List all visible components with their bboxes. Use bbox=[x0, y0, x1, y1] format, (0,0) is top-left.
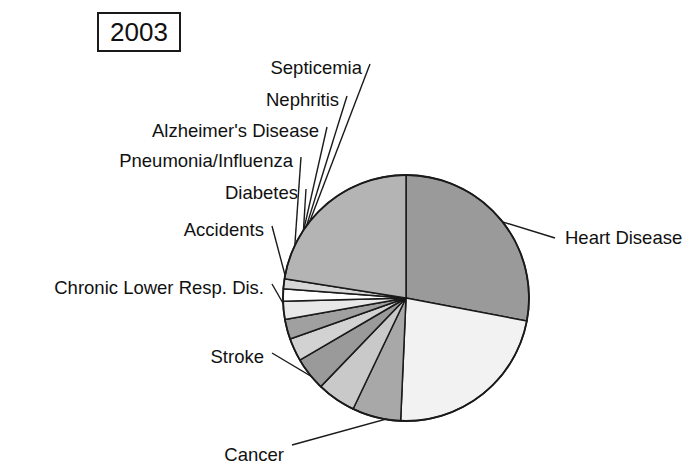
slice-label: Alzheimer's Disease bbox=[152, 122, 319, 141]
slice-label: Nephritis bbox=[266, 91, 339, 110]
slice-label: Heart Disease bbox=[565, 229, 682, 248]
slice-label: Diabetes bbox=[225, 184, 298, 203]
slice-label: Cancer bbox=[224, 446, 284, 465]
slice-label: Stroke bbox=[211, 348, 264, 367]
slice-label: Chronic Lower Resp. Dis. bbox=[54, 279, 264, 298]
slice-label: Pneumonia/Influenza bbox=[119, 152, 293, 171]
pie-slice bbox=[406, 175, 529, 321]
pie-chart-figure: 2003 Heart DiseaseCancerStrokeChronic Lo… bbox=[0, 0, 699, 474]
slice-label: Septicemia bbox=[270, 59, 362, 78]
pie-slices-group bbox=[283, 175, 529, 421]
slice-label: Accidents bbox=[184, 221, 264, 240]
pie-slice-other bbox=[285, 175, 406, 298]
